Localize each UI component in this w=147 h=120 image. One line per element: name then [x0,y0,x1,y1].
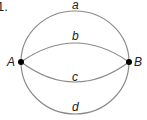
label-d: d [72,100,79,114]
label-a: a [72,0,79,12]
curve-b [21,43,129,62]
label-b: b [72,29,79,43]
graph-diagram: 1. a b c d A B [0,0,147,120]
problem-number: 1. [0,0,8,14]
point-b-dot [126,59,132,65]
label-point-b: B [134,55,142,69]
label-point-a: A [6,55,15,69]
label-c: c [72,70,78,84]
point-a-dot [18,59,24,65]
